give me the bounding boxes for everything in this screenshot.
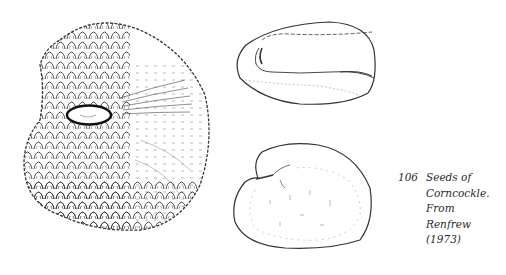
caption-line: Seeds of — [426, 170, 490, 186]
caption-line: Corncockle. — [426, 186, 490, 202]
large-seed-drawing — [20, 10, 220, 240]
top-seed-drawing — [237, 22, 375, 104]
bottom-seed-drawing — [234, 144, 372, 249]
caption-line: Renfrew — [426, 217, 490, 233]
hilum — [67, 106, 111, 125]
caption-line: From — [426, 201, 490, 217]
figure-number: 106 — [398, 170, 418, 186]
caption-line: (1973) — [426, 232, 490, 248]
